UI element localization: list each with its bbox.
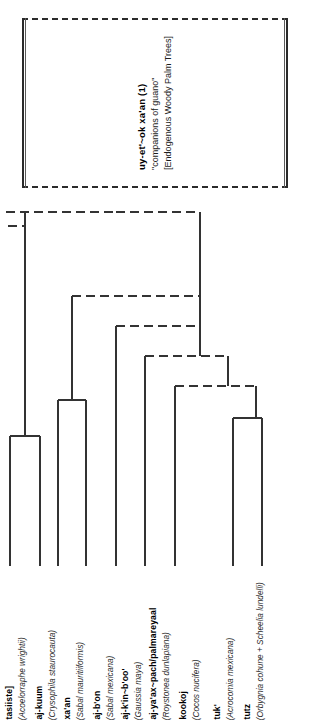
leaf-maya-6: aj-ya'ax~pach/palmareyaal (149, 608, 158, 720)
leaf-latin-4: (Sabal mexicana) (106, 655, 114, 720)
leaf-maya-7: kookoj (179, 691, 188, 720)
figure-canvas: uy-et'~ok xa'an (1) "companions of guano… (0, 0, 312, 722)
leaf-maya-9: tutz (243, 704, 252, 720)
leaf-latin-1: (Acoelorraphe wrightii) (18, 637, 26, 720)
leaf-maya-8: tuk' (213, 704, 222, 720)
leaf-maya-4: aj-b'on (93, 691, 102, 720)
dendrogram (0, 196, 312, 566)
leaf-maya-5: aj-k'in~b'oo' (121, 669, 130, 720)
leaf-latin-5: (Gaussia maya) (134, 661, 142, 720)
leaf-maya-1: tasiiste] (5, 686, 14, 720)
covert-category-box (22, 18, 288, 188)
leaf-latin-3: (Sabal mauritiiformis) (76, 642, 84, 720)
leaf-latin-6: (Roystonea dunlapiana) (162, 632, 170, 720)
leaf-label-column: tasiiste] (Acoelorraphe wrightii) aj-kuu… (0, 548, 312, 722)
leaf-maya-3: xa'an (63, 698, 72, 720)
leaf-maya-2: aj-kuum (35, 686, 44, 720)
leaf-latin-2: (Crysophila staurocauta) (48, 630, 56, 720)
leaf-latin-7: (Cocos nucifera) (192, 659, 200, 720)
leaf-latin-9: (Orbygnia cohune + Scheelia lundelli) (256, 582, 264, 720)
leaf-latin-8: (Acrocomia mexicana) (226, 637, 234, 720)
